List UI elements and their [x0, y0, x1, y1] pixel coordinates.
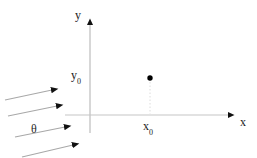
marked-point: [147, 75, 152, 80]
figure-canvas: y x y0 x0 θ: [0, 0, 257, 158]
flow-arrow-1: [5, 90, 52, 100]
y0-tick-label: y0: [71, 69, 81, 84]
y0-subscript: 0: [77, 77, 81, 86]
theta-angle-label: θ: [31, 123, 37, 135]
flow-arrow-3: [15, 127, 65, 137]
flow-arrow-4: [22, 145, 73, 157]
flow-arrow-group: [5, 90, 73, 157]
x-axis-label: x: [240, 116, 246, 128]
diagram-svg: [0, 0, 257, 158]
flow-arrow-2: [8, 106, 57, 116]
x0-subscript: 0: [149, 128, 153, 137]
y-axis-label: y: [75, 9, 81, 21]
x0-tick-label: x0: [143, 120, 153, 135]
